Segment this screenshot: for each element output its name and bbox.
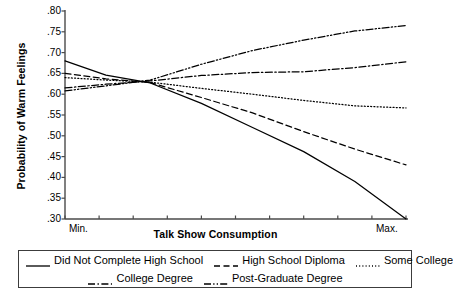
legend-item-label: Post-Graduate Degree (232, 272, 343, 284)
legend-item-label: Did Not Complete High School (54, 254, 203, 266)
legend-item[interactable]: Did Not Complete High School (25, 254, 203, 266)
legend-swatch-solid (25, 256, 51, 264)
legend-row-2: College DegreePost-Graduate Degree (19, 269, 411, 287)
chart-legend: Did Not Complete High SchoolHigh School … (18, 250, 412, 288)
legend-item-label: High School Diploma (242, 254, 345, 266)
legend-item-label: College Degree (116, 272, 192, 284)
legend-item[interactable]: Post-Graduate Degree (203, 272, 343, 284)
legend-swatch-dash-dot-dot (203, 274, 229, 282)
series-line-dotted (65, 78, 406, 108)
legend-swatch-dash-dot (87, 274, 113, 282)
legend-row-1: Did Not Complete High SchoolHigh School … (19, 251, 417, 269)
legend-swatch-dotted (355, 256, 381, 264)
legend-item-label: Some College (384, 254, 453, 266)
legend-item[interactable]: College Degree (87, 272, 192, 284)
legend-item[interactable]: Some College (355, 254, 453, 266)
legend-item[interactable]: High School Diploma (213, 254, 345, 266)
legend-swatch-dashed (213, 256, 239, 264)
